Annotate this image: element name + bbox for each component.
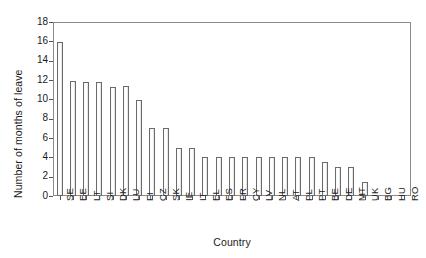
- y-tick-label: 16: [24, 35, 48, 46]
- x-tick-mark: [272, 196, 273, 200]
- y-tick-label: 10: [24, 93, 48, 104]
- bar-dk: [110, 87, 116, 196]
- x-tick-mark: [391, 196, 392, 200]
- bar-cz: [149, 128, 155, 196]
- x-tick-mark: [139, 196, 140, 200]
- x-tick-mark: [312, 196, 313, 200]
- x-tick-mark: [351, 196, 352, 200]
- y-tick-label: 12: [24, 74, 48, 85]
- y-tick-label: 6: [24, 132, 48, 143]
- y-tick-label: 18: [24, 16, 48, 27]
- y-tick-label: 4: [24, 151, 48, 162]
- bar-si: [96, 82, 102, 196]
- x-tick-mark: [205, 196, 206, 200]
- bar-lt: [83, 82, 89, 196]
- x-tick-mark: [192, 196, 193, 200]
- x-axis-title: Country: [53, 236, 411, 248]
- x-tick-mark: [73, 196, 74, 200]
- y-tick-label: 14: [24, 54, 48, 65]
- x-tick-mark: [113, 196, 114, 200]
- y-tick-label: 0: [24, 190, 48, 201]
- bar-fi: [136, 100, 142, 196]
- x-tick-mark: [60, 196, 61, 200]
- x-tick-mark: [166, 196, 167, 200]
- x-tick-mark: [232, 196, 233, 200]
- bar-ee: [70, 81, 76, 196]
- bar-se: [57, 42, 63, 196]
- y-tick-label: 2: [24, 170, 48, 181]
- bar-el: [202, 157, 208, 196]
- bar-sk: [163, 128, 169, 196]
- y-tick-mark: [49, 196, 53, 197]
- y-tick-label: 8: [24, 112, 48, 123]
- x-tick-mark: [338, 196, 339, 200]
- x-tick-mark: [285, 196, 286, 200]
- x-tick-mark: [404, 196, 405, 200]
- x-tick-mark: [298, 196, 299, 200]
- bar-chart-figure: Number of months of leave 02468101214161…: [0, 0, 426, 258]
- x-tick-mark: [152, 196, 153, 200]
- bars-container: [53, 22, 411, 196]
- x-tick-mark: [86, 196, 87, 200]
- x-tick-mark: [365, 196, 366, 200]
- x-tick-mark: [259, 196, 260, 200]
- x-tick-mark: [325, 196, 326, 200]
- x-tick-mark: [99, 196, 100, 200]
- x-tick-mark: [179, 196, 180, 200]
- x-tick-label-ro: RO: [409, 186, 420, 201]
- x-tick-mark: [219, 196, 220, 200]
- x-tick-mark: [126, 196, 127, 200]
- x-tick-mark: [245, 196, 246, 200]
- bar-lu: [123, 86, 129, 196]
- x-tick-mark: [378, 196, 379, 200]
- bar-it: [189, 148, 195, 196]
